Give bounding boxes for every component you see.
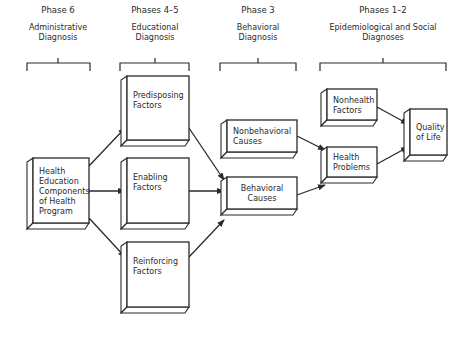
phase-subtitle: Diagnosis xyxy=(39,33,78,42)
phase-bracket xyxy=(220,58,296,71)
phase-bracket xyxy=(120,58,189,71)
phase-header-phase6: Phase 6AdministrativeDiagnosis xyxy=(27,5,90,71)
box-label: of Health xyxy=(39,197,76,206)
phase-label: Phases 4–5 xyxy=(131,5,179,15)
box-bottom-shade xyxy=(321,120,377,126)
phase-headers: Phase 6AdministrativeDiagnosisPhases 4–5… xyxy=(27,5,446,71)
diagram-canvas: Phase 6AdministrativeDiagnosisPhases 4–5… xyxy=(0,0,469,343)
phase-subtitle: Epidemiological and Social xyxy=(329,23,436,32)
box-face xyxy=(327,89,377,120)
arrow-nonhealth-to-quality_of_life xyxy=(377,107,408,124)
box-bottom-shade xyxy=(221,152,297,158)
box-side-shade xyxy=(121,158,127,229)
box-label: Enabling xyxy=(133,173,168,182)
phase-bracket xyxy=(320,58,446,71)
box-bottom-shade xyxy=(121,140,189,146)
node-reinforcing: ReinforcingFactors xyxy=(121,242,189,313)
node-health_ed: HealthEducationComponentsof HealthProgra… xyxy=(27,158,90,229)
box-side-shade xyxy=(121,242,127,313)
box-side-shade xyxy=(121,76,127,146)
box-label: Problems xyxy=(333,163,370,172)
box-label: Factors xyxy=(133,101,162,110)
box-face xyxy=(327,147,377,177)
box-bottom-shade xyxy=(221,209,297,215)
arrow-predisposing-to-behavioral xyxy=(189,128,224,180)
phase-header-phase12: Phases 1–2Epidemiological and SocialDiag… xyxy=(320,5,446,71)
arrow-health_ed-to-reinforcing xyxy=(89,218,125,257)
box-label: Causes xyxy=(248,194,277,203)
node-enabling: EnablingFactors xyxy=(121,158,189,229)
box-label: Factors xyxy=(333,106,362,115)
phase-subtitle: Diagnosis xyxy=(136,33,175,42)
box-bottom-shade xyxy=(321,177,377,183)
box-label: Education xyxy=(39,177,79,186)
box-label: Reinforcing xyxy=(133,257,178,266)
box-bottom-shade xyxy=(121,307,189,313)
box-label: Health xyxy=(333,153,359,162)
box-side-shade xyxy=(27,158,33,229)
node-behavioral: BehavioralCauses xyxy=(221,177,297,215)
phase-subtitle: Diagnoses xyxy=(362,33,404,42)
phase-bracket xyxy=(27,58,90,71)
node-quality_of_life: Qualityof Life xyxy=(404,109,447,161)
arrow-reinforcing-to-behavioral xyxy=(189,220,224,257)
box-label: Causes xyxy=(233,137,262,146)
phase-subtitle: Behavioral xyxy=(237,23,280,32)
node-nonhealth: NonhealthFactors xyxy=(321,89,377,126)
box-label: Factors xyxy=(133,267,162,276)
box-face xyxy=(227,120,297,152)
phase-header-phase45: Phases 4–5EducationalDiagnosis xyxy=(120,5,189,71)
box-label: Quality xyxy=(416,123,445,132)
phase-label: Phases 1–2 xyxy=(359,5,407,15)
precede-model-diagram: Phase 6AdministrativeDiagnosisPhases 4–5… xyxy=(0,0,469,343)
phase-subtitle: Educational xyxy=(132,23,179,32)
arrow-nonbehavioral-to-health_problems xyxy=(297,136,325,150)
box-label: Predisposing xyxy=(133,91,184,100)
box-label: Program xyxy=(39,207,73,216)
arrow-health_ed-to-predisposing xyxy=(89,128,125,166)
box-bottom-shade xyxy=(404,155,447,161)
box-face xyxy=(410,109,447,155)
box-label: Factors xyxy=(133,183,162,192)
phase-header-phase3: Phase 3BehavioralDiagnosis xyxy=(220,5,296,71)
box-label: Nonbehavioral xyxy=(233,127,291,136)
box-label: Components xyxy=(39,187,90,196)
box-bottom-shade xyxy=(121,223,189,229)
phase-subtitle: Diagnosis xyxy=(239,33,278,42)
box-label: Health xyxy=(39,167,65,176)
box-label: of Life xyxy=(416,133,441,142)
phase-subtitle: Administrative xyxy=(29,23,87,32)
node-nonbehavioral: NonbehavioralCauses xyxy=(221,120,297,158)
node-predisposing: PredisposingFactors xyxy=(121,76,189,146)
box-label: Nonhealth xyxy=(333,96,374,105)
phase-label: Phase 6 xyxy=(41,5,75,15)
box-side-shade xyxy=(404,109,410,161)
box-bottom-shade xyxy=(27,223,89,229)
box-label: Behavioral xyxy=(241,184,284,193)
node-health_problems: HealthProblems xyxy=(321,147,377,183)
arrow-behavioral-to-health_problems xyxy=(297,185,325,195)
box-face xyxy=(227,177,297,209)
phase-label: Phase 3 xyxy=(241,5,275,15)
